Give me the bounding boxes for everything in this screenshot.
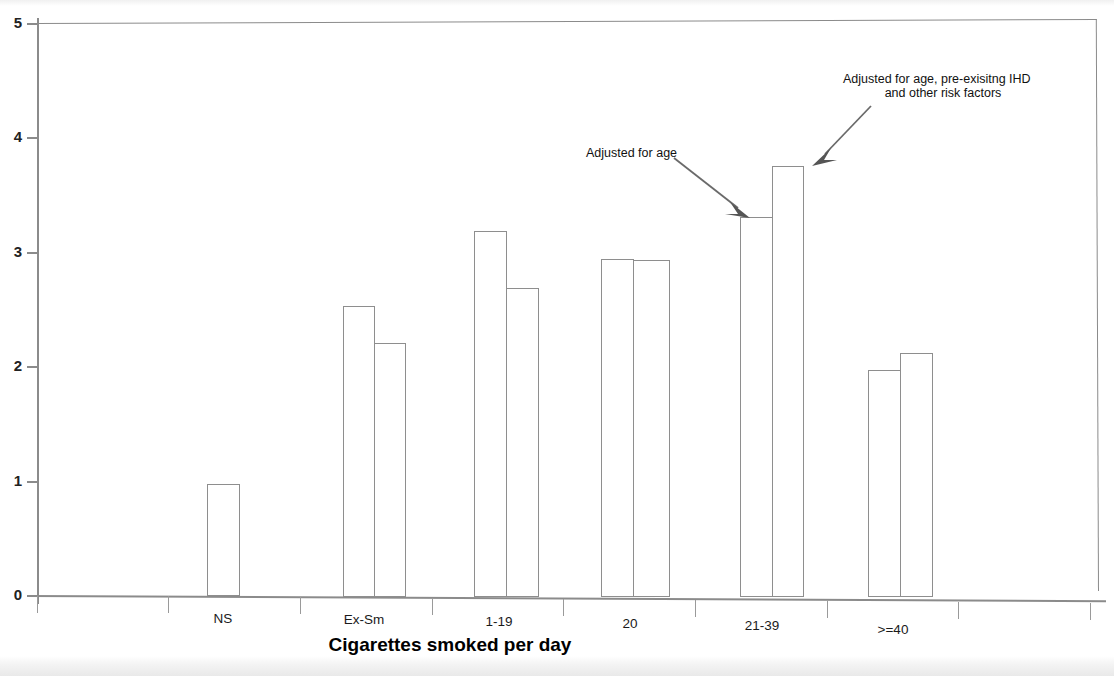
- bar-40plus-adjusted-age: [868, 370, 901, 597]
- y-tick-2: [27, 366, 39, 368]
- y-axis-label-4: 4: [0, 128, 22, 145]
- x-axis-title: Cigarettes smoked per day: [329, 634, 572, 656]
- annotation-adjusted-for-age-arrow-icon: [672, 156, 772, 226]
- x-axis-label-40plus: >=40: [878, 622, 909, 637]
- x-axis-label-1-19: 1-19: [485, 614, 512, 629]
- bar-21-39-adjusted-full: [772, 166, 804, 597]
- x-tick-3: [432, 598, 433, 615]
- y-axis-label-5: 5: [0, 14, 22, 31]
- annotation-adjusted-full-label-line1: Adjusted for age, pre-exisitng IHD: [843, 72, 1031, 86]
- x-axis-label-NS: NS: [214, 611, 233, 626]
- bar-1-19-adjusted-full: [506, 288, 539, 597]
- bar-21-39-adjusted-age: [740, 217, 773, 597]
- x-tick-2: [300, 597, 301, 614]
- bar-20-adjusted-full: [633, 260, 670, 597]
- bar-40plus-adjusted-full: [900, 353, 933, 597]
- y-axis-label-0: 0: [0, 586, 22, 603]
- annotation-adjusted-full-label-line2: and other risk factors: [843, 86, 1043, 100]
- x-tick-1: [168, 596, 169, 613]
- y-axis-line: [37, 18, 39, 604]
- x-tick-7: [958, 602, 959, 619]
- annotation-adjusted-full-arrow-icon: [795, 104, 885, 174]
- chart-figure: 5 4 3 2 1 0 NS Ex-Sm 1-19 20 21-39 >=40 …: [0, 0, 1114, 676]
- x-tick-4: [563, 599, 564, 616]
- bar-NS-adjusted-age: [207, 484, 240, 596]
- annotation-adjusted-for-age-label: Adjusted for age: [586, 146, 677, 160]
- y-axis-label-1: 1: [0, 472, 22, 489]
- x-axis-label-21-39: 21-39: [745, 618, 780, 633]
- scan-bottom-edge: [0, 656, 1114, 676]
- y-tick-5: [27, 23, 39, 25]
- bar-ExSm-adjusted-age: [343, 306, 375, 597]
- y-tick-3: [27, 252, 39, 254]
- x-tick-0: [37, 596, 38, 613]
- x-tick-6: [827, 601, 828, 618]
- y-tick-1: [27, 481, 39, 483]
- scan-top-edge: [0, 0, 1114, 6]
- y-axis-label-2: 2: [0, 357, 22, 374]
- x-axis-label-20: 20: [622, 616, 637, 631]
- bar-1-19-adjusted-age: [474, 231, 507, 597]
- x-tick-5: [695, 600, 696, 617]
- plot-area-frame: [35, 19, 1099, 595]
- bar-20-adjusted-age: [601, 259, 634, 597]
- x-axis-line: [28, 595, 1106, 602]
- bar-ExSm-adjusted-full: [374, 343, 406, 597]
- x-tick-8: [1090, 603, 1091, 620]
- y-axis-label-3: 3: [0, 243, 22, 260]
- y-tick-4: [27, 137, 39, 139]
- x-axis-label-ExSm: Ex-Sm: [344, 612, 385, 627]
